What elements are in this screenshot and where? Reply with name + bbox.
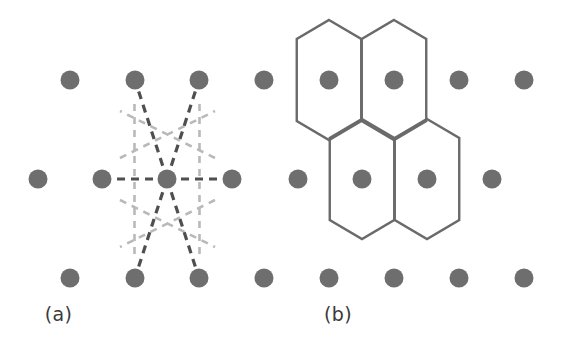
lattice-point-dot <box>190 269 209 288</box>
nearest-neighbour-bond-line <box>135 80 167 179</box>
wigner-seitz-cell-group <box>297 20 460 239</box>
panel-a-caption: (a) <box>0 303 199 325</box>
lattice-point-dot <box>515 269 534 288</box>
lattice-point-dot <box>418 170 437 189</box>
lattice-point-group <box>289 71 534 288</box>
panel-b-caption: (b) <box>197 303 479 325</box>
lattice-point-dot <box>483 170 502 189</box>
lattice-point-dot <box>385 269 404 288</box>
nearest-neighbour-bond-line <box>167 179 199 278</box>
panel-b: (b) <box>281 0 563 356</box>
nearest-neighbour-bond-line <box>167 80 199 179</box>
lattice-point-dot <box>29 170 48 189</box>
lattice-point-dot <box>93 170 112 189</box>
lattice-point-dot <box>158 170 177 189</box>
lattice-point-dot <box>320 71 339 90</box>
lattice-point-dot <box>126 269 145 288</box>
lattice-point-dot <box>289 170 308 189</box>
lattice-point-dot <box>255 71 274 90</box>
lattice-point-dot <box>450 269 469 288</box>
lattice-point-dot <box>385 71 404 90</box>
lattice-point-dot <box>61 71 80 90</box>
nearest-neighbour-bond-line <box>135 179 167 278</box>
lattice-point-dot <box>450 71 469 90</box>
lattice-point-dot <box>353 170 372 189</box>
lattice-point-dot <box>320 269 339 288</box>
lattice-point-dot <box>223 170 242 189</box>
figure-wigner-seitz-construction: (a) (b) <box>0 0 563 356</box>
lattice-point-dot <box>190 71 209 90</box>
lattice-point-dot <box>255 269 274 288</box>
lattice-point-dot <box>126 71 145 90</box>
lattice-point-dot <box>61 269 80 288</box>
lattice-point-dot <box>515 71 534 90</box>
